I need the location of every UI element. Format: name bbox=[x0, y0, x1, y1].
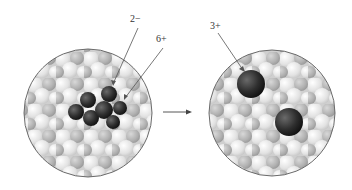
right-lattice bbox=[205, 45, 345, 185]
left-lattice bbox=[20, 45, 160, 185]
leader-line-3plus bbox=[218, 33, 243, 70]
central-atom-charge-label: 6+ bbox=[156, 33, 167, 44]
cation-1 bbox=[237, 70, 265, 98]
anion-charge-label: 2− bbox=[130, 13, 141, 24]
cation-2 bbox=[275, 108, 303, 136]
transition-arrow bbox=[163, 110, 192, 115]
cation-charge-label: 3+ bbox=[210, 20, 221, 31]
reaction-diagram bbox=[0, 0, 352, 190]
